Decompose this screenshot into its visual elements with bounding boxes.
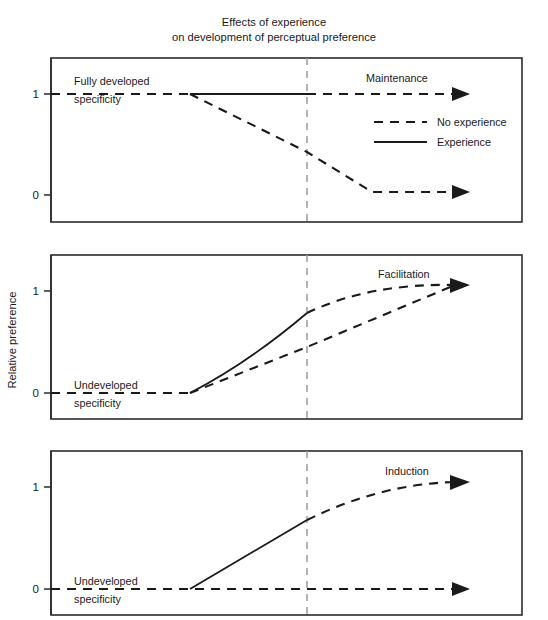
panel-2-baseline-label-line1: Undeveloped: [74, 379, 138, 391]
panel-3-outcome-label: Induction: [385, 465, 429, 477]
panel-3-baseline-label-line1: Undeveloped: [74, 575, 138, 587]
panel-1-experience-arrow: [452, 87, 470, 101]
panel-2-convergence-arrow: [450, 278, 470, 293]
panel-2-experience-curve: [190, 313, 307, 393]
panel-3-tick-label-1: 1: [33, 481, 39, 493]
figure-title-line1: Effects of experience: [222, 16, 326, 28]
legend: No experience Experience: [374, 116, 507, 148]
figure-root: Effects of experience on development of …: [0, 0, 548, 620]
panel-3-experience-continuation: [307, 482, 455, 520]
panel-3-experience-arrow: [450, 475, 470, 490]
perceptual-preference-figure: Effects of experience on development of …: [0, 0, 548, 620]
y-axis-title: Relative preference: [6, 291, 18, 388]
panel-2-no-experience-curve: [190, 285, 455, 393]
panel-maintenance: 1 0 Fully developed specificity Maintena…: [33, 58, 522, 222]
panel-1-tick-label-1: 1: [33, 88, 39, 100]
panel-2-tick-label-0: 0: [33, 387, 39, 399]
panel-1-baseline-label-line2: specificity: [74, 93, 121, 105]
panel-1-no-experience-arrow: [452, 185, 470, 199]
panel-2-experience-continuation: [307, 285, 455, 313]
panel-2-outcome-label: Facilitation: [378, 268, 430, 280]
panel-1-baseline-label-line1: Fully developed: [74, 75, 150, 87]
panel-1-no-experience-curve: [190, 94, 455, 192]
panel-3-experience-curve: [190, 520, 307, 589]
panel-3-baseline-label-line2: specificity: [74, 593, 121, 605]
panel-2-baseline-label-line2: specificity: [74, 397, 121, 409]
panel-1-tick-label-0: 0: [33, 189, 39, 201]
panel-3-no-experience-arrow: [452, 582, 470, 596]
panel-induction: 1 0 Undeveloped specificity Induction: [33, 451, 522, 615]
figure-title-line2: on development of perceptual preference: [172, 31, 376, 43]
panel-facilitation: 1 0 Undeveloped specificity Facilitation: [33, 255, 522, 419]
legend-label-experience: Experience: [437, 136, 491, 148]
legend-label-no-experience: No experience: [437, 116, 507, 128]
panel-3-tick-label-0: 0: [33, 583, 39, 595]
panel-2-tick-label-1: 1: [33, 285, 39, 297]
panel-1-outcome-label: Maintenance: [366, 72, 428, 84]
